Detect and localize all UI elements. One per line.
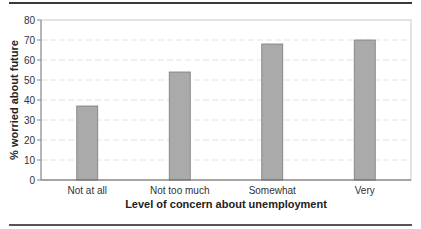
y-tick-label: 80 — [24, 15, 36, 26]
y-tick-label: 50 — [24, 75, 36, 86]
bar-chart: 01020304050607080 Not at allNot too much… — [0, 0, 421, 229]
x-axis-title: Level of concern about unemployment — [125, 198, 327, 210]
y-tick-label: 70 — [24, 35, 36, 46]
y-axis-title: % worried about future — [8, 40, 20, 160]
y-tick-label: 0 — [29, 175, 35, 186]
bar — [77, 106, 98, 180]
y-tick-label: 30 — [24, 115, 36, 126]
y-tick-label: 10 — [24, 155, 36, 166]
x-tick-label: Very — [355, 185, 375, 196]
bottom-rule — [9, 224, 412, 226]
x-tick-labels: Not at allNot too muchSomewhatVery — [68, 185, 375, 196]
bars — [77, 40, 376, 180]
y-tick-label: 40 — [24, 95, 36, 106]
bar — [262, 44, 283, 180]
bar — [354, 40, 375, 180]
x-tick-label: Somewhat — [249, 185, 296, 196]
y-tick-label: 20 — [24, 135, 36, 146]
y-ticks: 01020304050607080 — [24, 15, 41, 186]
x-tick-label: Not at all — [68, 185, 107, 196]
bar — [169, 72, 190, 180]
x-tick-label: Not too much — [150, 185, 209, 196]
y-tick-label: 60 — [24, 55, 36, 66]
